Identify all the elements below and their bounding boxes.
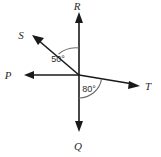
angle-label-50: 50° bbox=[51, 54, 65, 64]
ray-label-r: R bbox=[73, 0, 81, 12]
ray-q-arrowhead-icon bbox=[75, 121, 83, 132]
ray-t-arrowhead-icon bbox=[128, 81, 140, 89]
ray-t-line bbox=[79, 75, 133, 84]
ray-label-q: Q bbox=[74, 140, 82, 152]
ray-label-p: P bbox=[4, 69, 12, 81]
geometry-diagram: R S P T Q 50° 80° bbox=[0, 0, 161, 157]
diagram-canvas: R S P T Q 50° 80° bbox=[0, 0, 161, 157]
ray-p-left bbox=[24, 71, 79, 79]
ray-p-arrowhead-icon bbox=[24, 71, 34, 79]
angle-label-80: 80° bbox=[82, 84, 96, 94]
ray-r-arrowhead-icon bbox=[75, 12, 83, 23]
ray-label-t: T bbox=[145, 80, 152, 92]
ray-r-up bbox=[75, 12, 83, 75]
ray-label-s: S bbox=[18, 29, 24, 41]
